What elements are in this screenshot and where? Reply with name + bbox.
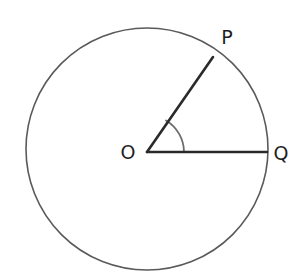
point-label-q: Q [274, 142, 289, 164]
radius-op [147, 57, 213, 152]
angle-poq-arc [166, 120, 184, 152]
geometry-figure: O P Q [0, 0, 302, 280]
point-label-o: O [121, 141, 136, 163]
point-label-p: P [221, 26, 232, 48]
geometry-canvas: O P Q [0, 0, 302, 280]
circle-outline [26, 28, 268, 270]
